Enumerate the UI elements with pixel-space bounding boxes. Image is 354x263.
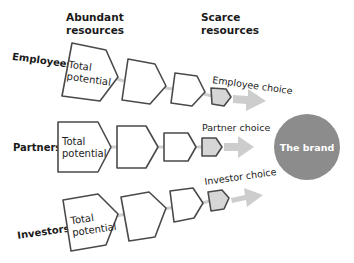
stage-4-shape [211,88,231,106]
stage-3-shape [171,73,205,106]
stage-2-shape [117,126,158,168]
arrow-icon [231,188,263,207]
funnel-diagram: Abundant resources Scarce resources The … [0,0,354,263]
header-line-1: Scarce [201,11,240,23]
arrow-icon [224,136,254,158]
first-shape-text: Total [61,136,85,147]
stage-3-shape [164,133,196,161]
stage-3-shape [170,188,203,222]
row-label: Employees [12,51,74,70]
stage-4-shape [208,190,229,211]
stage-2-shape [121,192,166,241]
row-partners: Partners Total potential Partner choice [13,122,270,172]
header-line-1: Abundant [66,11,124,23]
choice-label: Partner choice [202,122,270,133]
stage-4-shape [202,138,222,156]
first-shape-text: potential [62,148,106,159]
connector [165,88,173,89]
stage-2-shape [122,59,166,104]
header-line-2: resources [201,24,259,36]
row-employees: Employees Total potential Employee choic… [12,43,294,111]
row-label: Partners [13,142,61,153]
row-investors: Investors Total potential Investor choic… [17,166,278,251]
brand-circle: The brand [274,114,340,180]
arrow-icon [233,89,266,111]
brand-label: The brand [280,142,334,153]
connector [117,79,124,81]
stage-1-shape [58,122,111,172]
scarce-resources-header: Scarce resources [201,11,259,36]
abundant-resources-header: Abundant resources [66,11,124,36]
row-label: Investors [17,223,71,241]
choice-label: Investor choice [204,166,277,187]
header-line-2: resources [66,24,124,36]
